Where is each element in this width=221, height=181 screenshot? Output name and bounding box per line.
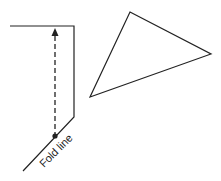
fold-point-dot (52, 133, 57, 138)
arrow-head-up-icon (52, 28, 59, 36)
triangle (90, 12, 211, 97)
fold-diagram: Fold line (0, 0, 221, 181)
